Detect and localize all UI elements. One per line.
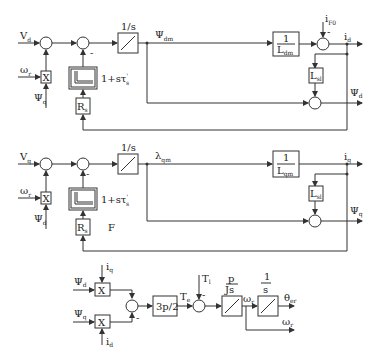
d-integrator-label: 1/s bbox=[121, 21, 136, 32]
d-lag-label: 1+sτ's bbox=[101, 72, 129, 86]
if0-label: iF0 bbox=[325, 13, 336, 26]
q-omega-label: ωr bbox=[20, 185, 31, 198]
svg-text:-: - bbox=[86, 168, 89, 179]
d-psi-q-label: Ψq bbox=[34, 92, 47, 106]
q-integrator-label: 1/s bbox=[121, 142, 136, 153]
svg-text:-: - bbox=[202, 289, 205, 300]
svg-text:X: X bbox=[43, 72, 51, 83]
d-sum-2 bbox=[77, 37, 89, 49]
svg-text:p: p bbox=[228, 273, 234, 284]
svg-text:X: X bbox=[98, 317, 106, 328]
q-lag-label: 1+sτ's bbox=[101, 193, 129, 207]
d-current-sum bbox=[317, 38, 329, 50]
q-axis-section: Vq 1/s λqm ωr X Ψd - 1+sτ's Rs F bbox=[18, 142, 363, 251]
psi-q-label: Ψq bbox=[350, 205, 363, 218]
q-psi-d-label: Ψd bbox=[34, 213, 47, 226]
d-sum-1 bbox=[40, 37, 52, 49]
f-label: F bbox=[108, 222, 115, 233]
d-omega-label: ωr bbox=[20, 64, 31, 77]
svg-text:1: 1 bbox=[283, 33, 289, 44]
motor-block-diagram: Vd 1/s Ψdm ωr X Ψq - 1+sτ's Rs bbox=[0, 0, 375, 364]
mech-iq-label: iq bbox=[106, 261, 113, 274]
omega-r-mid-label: ωr bbox=[243, 293, 254, 305]
omega-r-out-label: ωr bbox=[282, 316, 293, 328]
svg-text:1: 1 bbox=[264, 271, 270, 282]
iq-label: iq bbox=[344, 151, 351, 164]
vd-label: Vd bbox=[19, 30, 31, 43]
id-label: id bbox=[344, 31, 351, 43]
mech-torque-sum bbox=[126, 300, 138, 312]
mech-id-label: id bbox=[106, 336, 113, 348]
lambda-qm-label: λqm bbox=[155, 150, 171, 164]
tl-label: Tl bbox=[202, 273, 211, 285]
svg-text:3p/2: 3p/2 bbox=[156, 301, 179, 312]
svg-text:Js: Js bbox=[224, 284, 234, 295]
psi-d-label: Ψd bbox=[350, 87, 363, 99]
q-sum-1 bbox=[40, 158, 52, 170]
mech-load-sum bbox=[193, 300, 205, 312]
svg-text:-: - bbox=[90, 47, 93, 58]
svg-text:-: - bbox=[327, 26, 330, 37]
q-flux-sum bbox=[309, 215, 321, 227]
mech-psi-q-label: Ψq bbox=[74, 308, 87, 321]
te-label: Te bbox=[180, 291, 191, 303]
theta-er-label: θer bbox=[284, 292, 297, 304]
svg-text:X: X bbox=[43, 193, 51, 204]
svg-text:X: X bbox=[98, 285, 106, 296]
d-flux-sum bbox=[309, 97, 321, 109]
svg-text:-: - bbox=[136, 312, 139, 323]
svg-text:s: s bbox=[263, 284, 268, 295]
torque-section: Ψd X iq Ψq X id - 3p/2 Te Tl - p Js ωr 1 bbox=[73, 261, 297, 348]
d-axis-section: Vd 1/s Ψdm ωr X Ψq - 1+sτ's Rs bbox=[18, 13, 363, 130]
vq-label: Vq bbox=[19, 151, 31, 165]
psi-dm-label: Ψdm bbox=[155, 29, 174, 42]
mech-psi-d-label: Ψd bbox=[74, 276, 87, 288]
svg-text:1: 1 bbox=[283, 152, 289, 163]
